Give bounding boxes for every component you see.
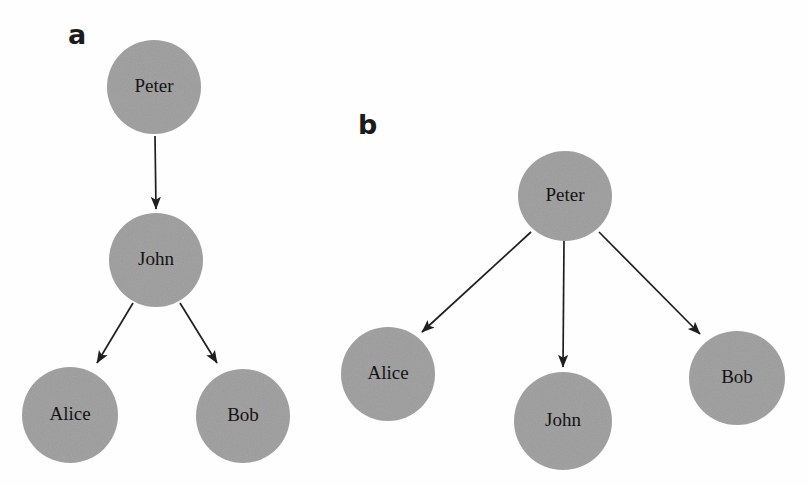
edge-peter-john-b [563, 241, 564, 367]
node-alice-a[interactable]: Alice [22, 367, 118, 463]
node-alice-b[interactable]: Alice [341, 327, 435, 421]
panel-b-letter: b [358, 109, 377, 140]
node-john-b-label: John [545, 409, 581, 430]
node-peter-a-label: Peter [134, 75, 174, 96]
node-bob-b[interactable]: Bob [689, 331, 785, 425]
node-alice-a-label: Alice [49, 403, 90, 424]
node-bob-a[interactable]: Bob [196, 369, 290, 463]
panel-a-letter: a [68, 19, 86, 50]
node-john-a-label: John [138, 248, 174, 269]
node-peter-b[interactable]: Peter [518, 151, 612, 241]
node-john-b[interactable]: John [514, 372, 612, 470]
node-john-a[interactable]: John [109, 213, 203, 307]
node-peter-b-label: Peter [545, 184, 585, 205]
node-bob-b-label: Bob [721, 366, 753, 387]
diagram-svg: a Peter John Alice [0, 0, 809, 485]
node-alice-b-label: Alice [367, 362, 408, 383]
panel-b-letter-text: b [358, 109, 377, 140]
panel-a-letter-text: a [68, 19, 86, 50]
edge-peter-john [155, 136, 156, 209]
node-peter-a[interactable]: Peter [107, 40, 201, 134]
node-bob-a-label: Bob [227, 404, 259, 425]
figure-canvas: a Peter John Alice [0, 0, 809, 485]
